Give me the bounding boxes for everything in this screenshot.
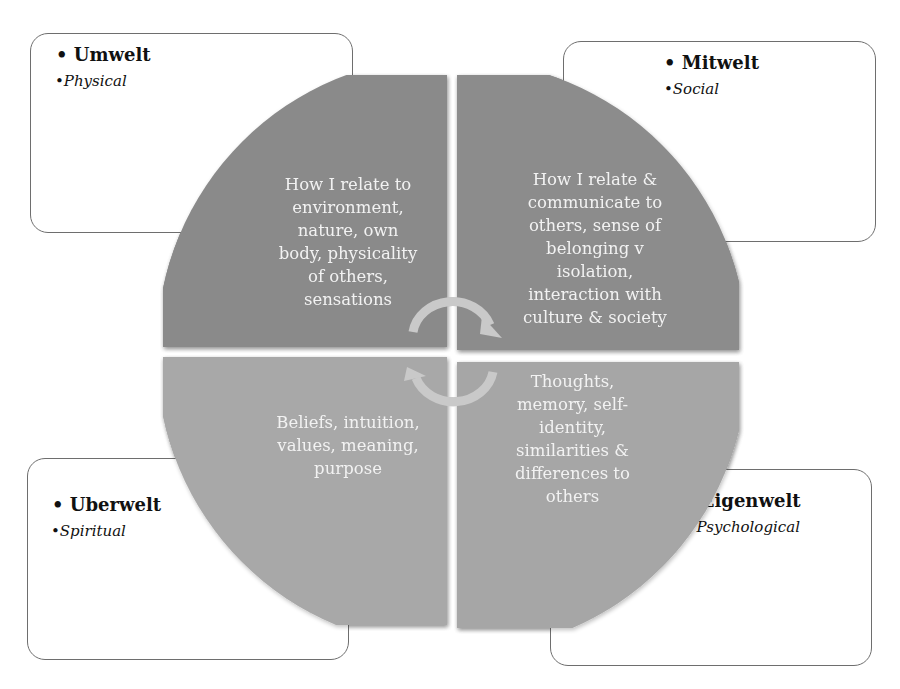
quadrant-bottom-left-text: Beliefs, intuition, values, meaning, pur… — [253, 411, 443, 480]
quadrant-bottom-right-text: Thoughts, memory, self- identity, simila… — [480, 370, 665, 508]
quadrant-top-left-text: How I relate to environment, nature, own… — [258, 173, 438, 311]
quadrant-top-right-text: How I relate & communicate to others, se… — [500, 168, 690, 329]
quadrant-circle-overlay — [0, 0, 900, 689]
